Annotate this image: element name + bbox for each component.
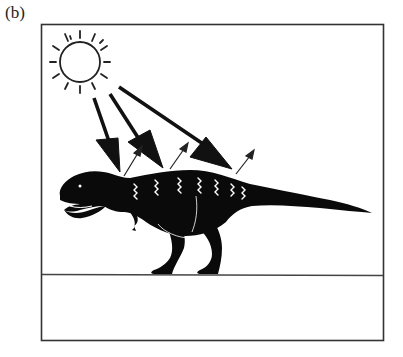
outgoing-arrow-icon (170, 143, 188, 169)
diagram-canvas (0, 0, 403, 357)
outgoing-arrow-icon (124, 146, 142, 176)
outgoing-arrow-icon (236, 150, 254, 174)
ground-line (42, 275, 383, 276)
sun-icon (50, 31, 110, 93)
incoming-radiation-arrows (94, 87, 232, 172)
incoming-arrow-icon (94, 98, 120, 172)
dinosaur-eye (79, 185, 82, 188)
